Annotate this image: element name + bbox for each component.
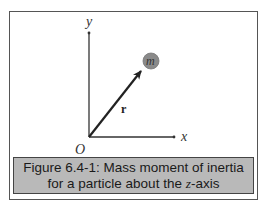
figure-caption: Figure 6.4-1: Mass moment of inertia for…: [13, 157, 254, 194]
position-vector-r: [89, 71, 141, 137]
y-axis-label: y: [84, 14, 93, 29]
caption-line-2-prefix: for a particle about the: [48, 176, 186, 191]
caption-line-2-suffix: -axis: [191, 176, 220, 191]
particle-label: m: [146, 54, 155, 68]
origin-label: O: [75, 142, 85, 157]
caption-line-2: for a particle about the z-axis: [14, 176, 253, 192]
y-axis-tip: [88, 32, 91, 35]
vector-label: r: [121, 102, 127, 116]
x-axis-tip: [173, 136, 176, 139]
x-axis-label: x: [180, 129, 188, 144]
caption-line-1: Figure 6.4-1: Mass moment of inertia: [14, 160, 253, 176]
